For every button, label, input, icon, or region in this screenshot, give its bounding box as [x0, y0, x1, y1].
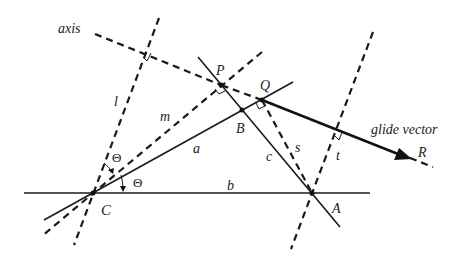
label-Q: Q [260, 78, 270, 93]
diagram-canvas: axis glide vector P Q R B C A a b c l m … [0, 0, 460, 264]
label-b: b [227, 178, 234, 193]
line-s [262, 100, 312, 193]
right-angle-marker-m [215, 89, 225, 94]
point-B [240, 108, 245, 113]
label-R: R [417, 145, 427, 160]
label-s: s [295, 140, 301, 155]
label-C: C [101, 202, 112, 218]
label-glide-vector: glide vector [371, 122, 438, 137]
label-t: t [336, 148, 341, 163]
label-theta-upper: Θ [112, 150, 121, 165]
label-P: P [215, 63, 225, 78]
angle-arrowhead-lower-icon [120, 186, 126, 192]
point-A [310, 191, 315, 196]
label-theta-lower: Θ [133, 175, 142, 190]
line-a [44, 82, 293, 220]
label-c: c [266, 149, 273, 164]
line-m [42, 52, 262, 236]
point-C [91, 191, 96, 196]
point-P [219, 83, 224, 88]
point-Q [260, 98, 265, 103]
axis-line [95, 34, 221, 85]
arrowhead-icon [394, 148, 412, 160]
line-l [74, 18, 159, 245]
label-a: a [193, 141, 200, 156]
label-l: l [114, 94, 118, 109]
glide-reflection-diagram: axis glide vector P Q R B C A a b c l m … [0, 0, 460, 264]
label-m: m [160, 109, 170, 124]
label-B: B [236, 121, 245, 136]
label-A: A [331, 201, 341, 216]
angle-arrowhead-upper-icon [108, 168, 114, 174]
label-axis: axis [58, 21, 81, 36]
